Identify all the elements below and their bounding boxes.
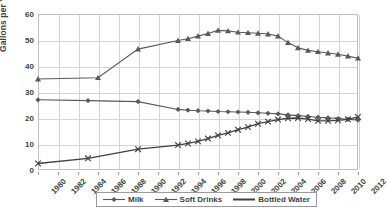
y-axis-tick-label: 0 <box>10 166 34 175</box>
data-point-diamond <box>275 111 280 116</box>
x-axis-tick-mark <box>198 172 199 175</box>
y-axis-tick-labels: 0102030405060 <box>8 14 34 170</box>
y-axis-tick-label: 30 <box>10 88 34 97</box>
x-axis-tick-mark <box>258 172 259 175</box>
legend-label: Bottled Water <box>258 195 310 204</box>
series-soft-drinks <box>35 27 361 81</box>
series-bottled-water <box>35 114 361 166</box>
x-axis-tick-mark <box>278 172 279 175</box>
y-axis-tick-label: 40 <box>10 62 34 71</box>
x-axis-tick-mark <box>78 172 79 175</box>
legend-swatch-diamond <box>103 195 125 204</box>
x-axis-tick-mark <box>158 172 159 175</box>
x-axis-tick-label: 2010 <box>349 177 368 196</box>
series-layer <box>38 14 358 170</box>
legend-label: Soft Drinks <box>180 195 223 204</box>
y-axis-tick-label: 10 <box>10 140 34 149</box>
legend-item-bottled-water[interactable]: Bottled Water <box>233 195 310 204</box>
x-axis-tick-mark <box>118 172 119 175</box>
data-point-diamond <box>85 98 90 103</box>
data-point-diamond <box>255 110 260 115</box>
data-point-diamond <box>185 108 190 113</box>
x-axis-tick-mark <box>238 172 239 175</box>
data-point-diamond <box>235 109 240 114</box>
data-point-diamond <box>111 197 116 202</box>
x-axis-tick-mark <box>318 172 319 175</box>
data-point-triangle <box>285 40 291 45</box>
legend-label: Milk <box>128 195 144 204</box>
series-milk <box>35 97 360 122</box>
x-axis-tick-mark <box>298 172 299 175</box>
data-point-diamond <box>215 109 220 114</box>
y-axis-tick-label: 20 <box>10 114 34 123</box>
x-axis-tick-mark <box>138 172 139 175</box>
y-axis-title: Gallons per Year <box>0 0 8 52</box>
y-axis-tick-label: 60 <box>10 10 34 19</box>
x-axis-tick-label: 2008 <box>329 177 348 196</box>
data-point-diamond <box>265 111 270 116</box>
legend-item-soft-drinks[interactable]: Soft Drinks <box>155 195 223 204</box>
data-point-diamond <box>205 108 210 113</box>
legend-swatch-line <box>233 195 255 204</box>
gridline-vertical <box>359 15 360 169</box>
data-point-diamond <box>175 107 180 112</box>
data-point-diamond <box>245 110 250 115</box>
data-point-diamond <box>225 109 230 114</box>
chart-legend: MilkSoft DrinksBottled Water <box>96 192 317 207</box>
data-point-diamond <box>135 99 140 104</box>
x-axis-tick-mark <box>358 172 359 175</box>
data-point-diamond <box>195 108 200 113</box>
x-axis-tick-label: 2012 <box>369 177 388 196</box>
x-axis-tick-mark <box>218 172 219 175</box>
legend-item-milk[interactable]: Milk <box>103 195 144 204</box>
x-axis-tick-mark <box>178 172 179 175</box>
x-axis-tick-mark <box>98 172 99 175</box>
x-axis-tick-label: 1982 <box>69 177 88 196</box>
data-point-diamond <box>35 97 40 102</box>
x-axis-tick-mark <box>38 172 39 175</box>
data-point-triangle <box>295 45 301 50</box>
y-axis-tick-label: 50 <box>10 36 34 45</box>
legend-swatch-triangle <box>155 195 177 204</box>
x-axis-tick-mark <box>58 172 59 175</box>
x-axis-tick-label: 1980 <box>49 177 68 196</box>
x-axis-tick-mark <box>338 172 339 175</box>
